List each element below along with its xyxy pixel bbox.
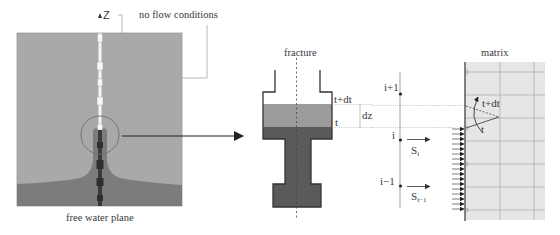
flux-label-i-minus-1: Si−1 [411,191,427,204]
node-column [399,72,430,208]
node-i-plus-1 [399,92,402,95]
z-axis-arrow-icon [98,13,102,18]
level-lower-label: t [335,117,338,128]
free-water-plane-label: free water plane [66,213,134,224]
angle-lower-label: t [481,124,484,135]
fracture-schematic [263,58,332,220]
z-axis-label: Z [103,10,110,21]
infiltration-arrows [452,129,464,209]
angle-upper-label: t+dt [482,98,500,109]
matrix-grid [464,62,545,221]
node-label-i: i [392,130,395,141]
node-i [399,138,402,141]
node-label-i-minus-1: i−1 [380,176,395,187]
level-upper-label: t+dt [334,94,352,105]
fracture-title: fracture [284,48,317,59]
diagram-canvas [0,0,560,235]
node-i-minus-1 [399,184,402,187]
dz-label: dz [362,110,372,121]
no-flow-label: no flow conditions [139,10,218,21]
flux-label-i: Si [411,145,419,158]
node-label-i-plus-1: i+1 [384,82,399,93]
soil-column-model [17,33,182,206]
matrix-title: matrix [481,48,508,59]
